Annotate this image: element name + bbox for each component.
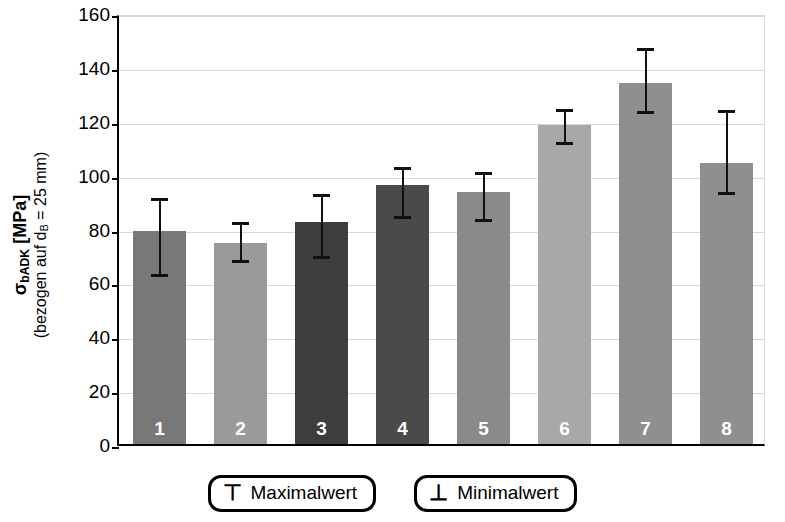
error-bar-cap-min (718, 192, 735, 195)
y-axis-unit: [MPa] (10, 195, 30, 249)
y-axis-ref-suffix: = 25 mm) (32, 152, 49, 224)
y-axis-title-sub: (bezogen auf dB = 25 mm) (32, 152, 50, 338)
d-subscript: B (38, 224, 50, 231)
sigma-subscript: bADK (18, 249, 32, 283)
min-tick-icon: ⊥ (429, 481, 447, 505)
error-bar-cap-min (232, 260, 249, 263)
error-bar-line (726, 110, 728, 194)
y-axis-tick (112, 124, 119, 126)
y-axis-tick (112, 16, 119, 18)
y-axis-tick-labels: 020406080100120140160 (60, 0, 110, 460)
error-bar-cap-max (232, 222, 249, 225)
error-bar-line (483, 172, 485, 220)
bar[interactable]: 6 (538, 125, 591, 444)
error-bar-cap-max (394, 167, 411, 170)
bar-label: 7 (619, 419, 672, 438)
error-bar-cap-min (394, 216, 411, 219)
error-bar-line (159, 198, 161, 276)
error-bar-cap-min (151, 274, 168, 277)
y-tick-label: 60 (64, 274, 110, 293)
legend-item[interactable]: ⊤Maximalwert (208, 475, 377, 512)
error-bar-cap-max (475, 172, 492, 175)
max-tick-icon: ⊤ (223, 481, 241, 505)
y-axis-tick (112, 70, 119, 72)
y-axis-ref-prefix: (bezogen auf d (32, 232, 49, 339)
y-tick-label: 80 (64, 221, 110, 240)
y-tick-label: 100 (64, 167, 110, 186)
y-tick-label: 40 (64, 328, 110, 347)
y-axis-tick (112, 232, 119, 234)
error-bar-line (402, 167, 404, 218)
bar-label: 5 (457, 419, 510, 438)
y-tick-label: 160 (64, 5, 110, 24)
error-bar-line (645, 48, 647, 113)
bar[interactable]: 2 (214, 243, 267, 444)
legend-item[interactable]: ⊥Minimalwert (414, 475, 577, 512)
y-axis-title: σbADK [MPa] (bezogen auf dB = 25 mm) (0, 95, 60, 395)
bar-label: 3 (295, 419, 348, 438)
y-axis-tick (112, 393, 119, 395)
error-bar-cap-max (313, 194, 330, 197)
y-axis-tick (112, 178, 119, 180)
y-axis-tick (112, 339, 119, 341)
bar-series: 12345678 (119, 16, 764, 444)
bar[interactable]: 4 (376, 185, 429, 444)
plot-area: 12345678 (117, 15, 765, 446)
error-bar-cap-min (637, 111, 654, 114)
bar-label: 4 (376, 419, 429, 438)
bar[interactable]: 5 (457, 192, 510, 444)
error-bar-line (321, 194, 323, 259)
error-bar-cap-min (556, 142, 573, 145)
legend-label: Maximalwert (251, 481, 358, 505)
sigma-symbol: σ (10, 283, 30, 295)
error-bar-cap-max (718, 110, 735, 113)
y-tick-label: 140 (64, 59, 110, 78)
legend-label: Minimalwert (457, 481, 558, 505)
bar-label: 6 (538, 419, 591, 438)
chart-root: σbADK [MPa] (bezogen auf dB = 25 mm) 020… (0, 0, 785, 522)
error-bar-cap-max (556, 109, 573, 112)
error-bar-line (564, 109, 566, 144)
error-bar-cap-max (151, 198, 168, 201)
y-tick-label: 20 (64, 382, 110, 401)
y-axis-title-main: σbADK [MPa] (10, 195, 32, 295)
error-bar-cap-max (637, 48, 654, 51)
y-axis-tick (112, 447, 119, 449)
bar-label: 8 (700, 419, 753, 438)
error-bar-cap-min (313, 256, 330, 259)
bar-label: 2 (214, 419, 267, 438)
y-tick-label: 120 (64, 113, 110, 132)
y-axis-tick (112, 285, 119, 287)
error-bar-line (240, 222, 242, 262)
bar[interactable]: 8 (700, 163, 753, 444)
chart-legend: ⊤Maximalwert⊥Minimalwert (0, 464, 785, 522)
error-bar-cap-min (475, 219, 492, 222)
bar[interactable]: 7 (619, 83, 672, 444)
bar-label: 1 (133, 419, 186, 438)
y-tick-label: 0 (64, 436, 110, 455)
